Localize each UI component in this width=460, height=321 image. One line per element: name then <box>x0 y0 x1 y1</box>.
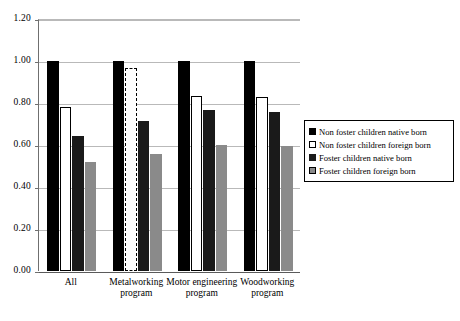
bar <box>113 61 125 271</box>
bar <box>244 61 256 271</box>
bar <box>281 146 293 271</box>
y-axis-tick-label: 0.20 <box>0 224 31 234</box>
bar <box>191 96 203 271</box>
y-axis-tick-label: 0.60 <box>0 140 31 150</box>
bar <box>203 110 215 271</box>
gridline <box>39 272 300 273</box>
plot-area <box>38 19 300 271</box>
bar <box>60 107 72 271</box>
y-axis-tick-label: 0.40 <box>0 182 31 192</box>
bar <box>256 97 268 271</box>
y-axis-tick-label: 0.80 <box>0 98 31 108</box>
bar <box>47 61 59 271</box>
bar <box>150 154 162 271</box>
legend-label: Foster children native born <box>319 153 412 163</box>
bar <box>138 121 150 271</box>
bar <box>72 136 84 271</box>
bar <box>269 112 281 271</box>
legend-swatch-icon <box>309 128 316 135</box>
legend-label: Non foster children native born <box>319 127 427 137</box>
legend-item[interactable]: Foster children foreign born <box>309 164 450 177</box>
bar-group <box>236 20 302 271</box>
bar-group <box>105 20 171 271</box>
bar-group <box>170 20 236 271</box>
legend-item[interactable]: Foster children native born <box>309 151 450 164</box>
legend-item[interactable]: Non foster children native born <box>309 125 450 138</box>
legend-swatch-icon <box>309 141 316 148</box>
y-axis-tick-label: 0.00 <box>0 266 31 276</box>
x-axis-label: Woodworking program <box>223 277 313 299</box>
bar <box>178 61 190 271</box>
bar-group <box>39 20 105 271</box>
chart-legend: Non foster children native bornNon foste… <box>304 120 454 182</box>
legend-swatch-icon <box>309 167 316 174</box>
legend-item[interactable]: Non foster children foreign born <box>309 138 450 151</box>
bar <box>125 68 137 271</box>
legend-label: Foster children foreign born <box>319 166 416 176</box>
legend-swatch-icon <box>309 154 316 161</box>
y-axis-tick <box>35 272 39 273</box>
legend-label: Non foster children foreign born <box>319 140 431 150</box>
y-axis-tick-label: 1.00 <box>0 56 31 66</box>
bar-chart-figure: 0.000.200.400.600.801.001.20 AllMetalwor… <box>0 0 460 321</box>
y-axis-tick-label: 1.20 <box>0 14 31 24</box>
bar <box>216 145 228 271</box>
bar <box>85 162 97 271</box>
